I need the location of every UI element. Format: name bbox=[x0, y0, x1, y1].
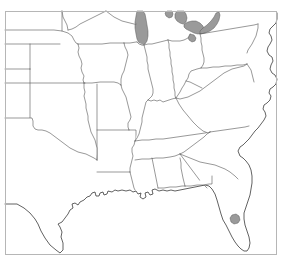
us-outline-map bbox=[0, 0, 284, 266]
map-figure bbox=[0, 0, 284, 266]
lake-okeechobee-shape bbox=[230, 214, 240, 224]
